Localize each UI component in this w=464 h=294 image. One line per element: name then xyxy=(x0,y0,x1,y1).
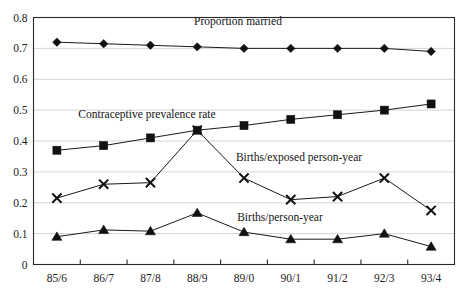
x-axis-tick-label: 88/9 xyxy=(187,272,208,284)
y-axis-tick-label: 0.1 xyxy=(13,228,28,240)
y-axis-tick-label: 0.2 xyxy=(13,197,28,209)
series-annotation-label: Births/exposed person-year xyxy=(236,151,362,164)
x-axis-tick-label: 90/1 xyxy=(281,272,302,284)
data-point-marker xyxy=(100,142,108,150)
x-axis-tick-label: 92/3 xyxy=(374,272,395,284)
data-point-marker xyxy=(192,208,202,216)
data-point-marker xyxy=(99,225,109,233)
chart-container: 00.10.20.30.40.50.60.70.8 85/686/787/888… xyxy=(0,0,464,294)
y-axis-tick-label: 0.7 xyxy=(13,42,28,54)
x-axis-tick-label: 86/7 xyxy=(93,272,114,284)
y-axis-tick-label: 0.6 xyxy=(13,73,28,85)
series-annotation-label: Births/person-year xyxy=(237,211,323,224)
data-point-marker xyxy=(99,40,107,48)
data-point-marker xyxy=(239,173,248,182)
y-axis-tick-label: 0.5 xyxy=(13,104,28,116)
data-point-marker xyxy=(427,206,436,215)
x-axis-ticks xyxy=(80,260,407,265)
data-point-marker xyxy=(240,122,248,130)
data-point-marker xyxy=(380,173,389,182)
data-point-marker xyxy=(379,229,389,237)
x-axis-tick-label: 85/6 xyxy=(47,272,68,284)
x-axis-tick-label: 89/0 xyxy=(234,272,255,284)
y-axis-tick-label: 0 xyxy=(22,259,28,271)
data-point-marker xyxy=(53,38,61,46)
y-axis-tick-labels: 00.10.20.30.40.50.60.70.8 xyxy=(13,12,28,271)
x-axis-tick-labels: 85/686/787/888/989/090/191/292/393/4 xyxy=(47,272,442,284)
data-point-marker xyxy=(239,227,249,235)
y-axis-tick-label: 0.3 xyxy=(13,166,28,178)
data-point-marker xyxy=(145,226,155,234)
y-axis-tick-label: 0.8 xyxy=(13,12,28,24)
data-point-marker xyxy=(380,106,388,114)
data-point-marker xyxy=(287,115,295,123)
data-point-marker xyxy=(287,44,295,52)
x-axis-tick-label: 87/8 xyxy=(140,272,161,284)
data-point-marker xyxy=(333,44,341,52)
data-point-marker xyxy=(53,146,61,154)
line-chart: 00.10.20.30.40.50.60.70.8 85/686/787/888… xyxy=(0,0,464,294)
data-point-marker xyxy=(334,111,342,119)
data-point-marker xyxy=(146,134,154,142)
data-point-marker xyxy=(427,100,435,108)
series-annotations-group: Proportion marriedContraceptive prevalen… xyxy=(78,15,362,224)
data-point-marker xyxy=(240,44,248,52)
y-axis-tick-label: 0.4 xyxy=(13,135,28,147)
series-line xyxy=(57,130,431,210)
data-point-marker xyxy=(52,194,61,203)
data-point-marker xyxy=(380,44,388,52)
x-axis-tick-label: 93/4 xyxy=(421,272,442,284)
x-axis-tick-label: 91/2 xyxy=(327,272,348,284)
data-point-marker xyxy=(193,43,201,51)
series-annotation-label: Contraceptive prevalence rate xyxy=(78,108,215,121)
